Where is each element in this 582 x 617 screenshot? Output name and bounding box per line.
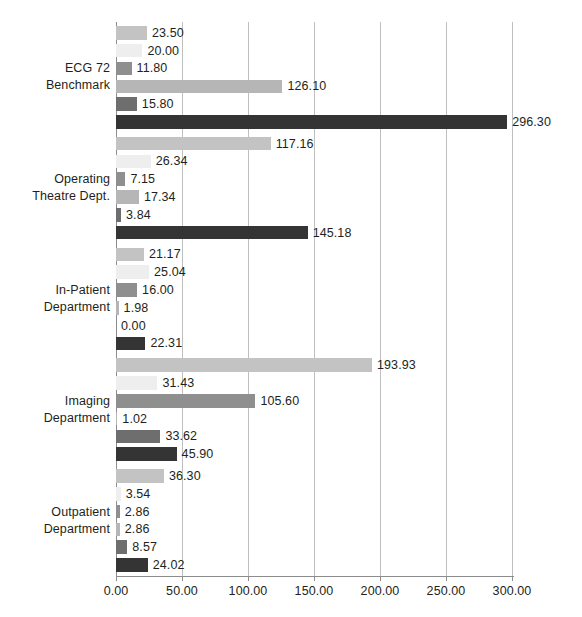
y-axis-category-label-line: Benchmark [0,77,110,94]
bar-value-label: 145.18 [313,226,352,239]
bar-value-label: 2.86 [125,505,150,518]
y-axis-category-label-line: Operating [0,171,110,188]
bar-row: 22.31 [116,337,514,351]
bar-value-label: 24.02 [153,559,185,572]
bar[interactable] [116,469,164,483]
bar-value-label: 2.86 [125,523,150,536]
bar-value-label: 3.84 [126,209,151,222]
x-axis-tick-label: 0.00 [104,585,129,598]
bar-value-label: 22.31 [150,337,182,350]
bar-row: 3.84 [116,208,514,222]
y-axis-category-label: OutpatientDepartment [0,504,110,538]
bar-value-label: 23.50 [152,27,184,40]
y-axis-category-label: ECG 72Benchmark [0,60,110,94]
bar[interactable] [116,265,149,279]
x-axis-tick [314,576,315,581]
bar[interactable] [116,80,282,94]
bar-value-label: 17.34 [144,191,176,204]
y-axis-category-label-line: Department [0,521,110,538]
bar[interactable] [116,208,121,222]
bar-row: 105.60 [116,394,514,408]
bar-row: 117.16 [116,137,514,151]
bar[interactable] [116,283,137,297]
bar[interactable] [116,376,157,390]
bar-row: 3.54 [116,487,514,501]
bar-row: 21.17 [116,248,514,262]
bar-value-label: 31.43 [162,377,194,390]
bar[interactable] [116,447,177,461]
bar-value-label: 16.00 [142,284,174,297]
y-axis-category-label-line: Imaging [0,393,110,410]
y-axis-category-label-line: Outpatient [0,504,110,521]
bar-row: 2.86 [116,523,514,537]
x-axis-tick-label: 200.00 [361,585,400,598]
bar[interactable] [116,394,255,408]
bar-row: 17.34 [116,190,514,204]
bar[interactable] [116,248,144,262]
bar[interactable] [116,358,372,372]
bar[interactable] [116,115,507,129]
bar-row: 36.30 [116,469,514,483]
x-axis-tick-label: 50.00 [166,585,198,598]
bar-value-label: 105.60 [260,395,299,408]
bar-value-label: 3.54 [126,488,151,501]
bar-row: 45.90 [116,447,514,461]
bar-value-label: 36.30 [169,470,201,483]
bar[interactable] [116,487,121,501]
bar[interactable] [116,44,142,58]
bar-value-label: 21.17 [149,248,181,261]
y-axis-category-label: OperatingTheatre Dept. [0,171,110,205]
bar[interactable] [116,540,127,554]
x-axis: 0.0050.00100.00150.00200.00250.00300.00 [116,576,514,617]
bar-row: 25.04 [116,265,514,279]
bar[interactable] [116,505,120,519]
bar-row: 31.43 [116,376,514,390]
bar-value-label: 45.90 [182,448,214,461]
x-axis-tick [446,576,447,581]
bar-row: 193.93 [116,358,514,372]
bar[interactable] [116,523,120,537]
bar-value-label: 117.16 [276,137,314,150]
bar[interactable] [116,172,125,186]
bar[interactable] [116,430,160,444]
bar-row: 11.80 [116,62,514,76]
bar-row: 15.80 [116,97,514,111]
bar[interactable] [116,137,271,151]
bar[interactable] [116,226,308,240]
bar-row: 145.18 [116,226,514,240]
bar-group: 23.5020.0011.80126.1015.80296.30 [116,22,514,133]
bar[interactable] [116,155,151,169]
bar[interactable] [116,558,148,572]
bar[interactable] [116,337,145,351]
x-axis-tick-label: 300.00 [493,585,532,598]
bar-row: 1.98 [116,301,514,315]
bar-row: 1.02 [116,412,514,426]
bar[interactable] [116,412,117,426]
bar[interactable] [116,301,119,315]
y-axis-category-label: In-PatientDepartment [0,282,110,316]
bar[interactable] [116,62,132,76]
x-axis-tick-label: 250.00 [427,585,466,598]
bar[interactable] [116,190,139,204]
bar-row: 8.57 [116,540,514,554]
bar-group: 193.9331.43105.601.0233.6245.90 [116,354,514,465]
bar-row: 20.00 [116,44,514,58]
x-axis-tick-label: 100.00 [229,585,268,598]
bar-value-label: 8.57 [132,541,157,554]
bar-row: 23.50 [116,26,514,40]
x-axis-tick [380,576,381,581]
bar-row: 24.02 [116,558,514,572]
bar[interactable] [116,26,147,40]
x-axis-tick [248,576,249,581]
bar-value-label: 25.04 [154,266,186,279]
bar-value-label: 193.93 [377,359,416,372]
y-axis-category-label: ImagingDepartment [0,393,110,427]
bar[interactable] [116,97,137,111]
bar-value-label: 11.80 [137,62,168,75]
bar-value-label: 296.30 [512,116,551,129]
bar-group: 117.1626.347.1517.343.84145.18 [116,133,514,244]
bar-value-label: 126.10 [287,80,326,93]
x-axis-line [116,576,514,577]
bar-value-label: 20.00 [147,44,179,57]
x-axis-tick [512,576,513,581]
